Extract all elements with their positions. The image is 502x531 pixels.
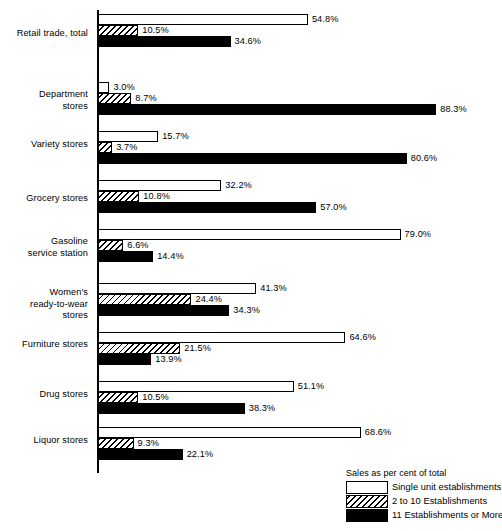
bar-value-label: 41.3% <box>260 283 287 294</box>
bar-value-label: 10.5% <box>142 392 169 403</box>
bar-value-label: 21.5% <box>184 343 211 354</box>
bar-value-label: 22.1% <box>187 449 214 460</box>
category-label: Retail trade, total <box>0 28 88 40</box>
bar-single <box>98 82 109 93</box>
category-label: Gasoline service station <box>0 236 88 259</box>
legend-swatch-mid <box>346 495 388 508</box>
category-label: Variety stores <box>0 139 88 151</box>
bar-value-label: 38.3% <box>249 403 276 414</box>
bar-single <box>98 180 221 191</box>
bar-mid <box>98 25 138 36</box>
bar-large <box>98 403 245 414</box>
bar-value-label: 34.6% <box>235 36 262 47</box>
bar-value-label: 51.1% <box>298 381 325 392</box>
bar-value-label: 9.3% <box>138 438 159 449</box>
bar-single <box>98 229 401 240</box>
bar-single <box>98 381 294 392</box>
bar-value-label: 8.7% <box>135 93 156 104</box>
bar-single <box>98 14 308 25</box>
category-label: Furniture stores <box>0 339 88 351</box>
bar-value-label: 34.3% <box>233 305 260 316</box>
bar-value-label: 24.4% <box>195 294 222 305</box>
category-label: Drug stores <box>0 389 88 401</box>
bar-mid <box>98 294 191 305</box>
bar-mid <box>98 142 112 153</box>
bar-value-label: 3.7% <box>116 142 137 153</box>
bar-value-label: 13.9% <box>155 354 182 365</box>
bar-value-label: 10.8% <box>143 191 170 202</box>
bar-single <box>98 283 256 294</box>
bar-mid <box>98 343 180 354</box>
bar-value-label: 3.0% <box>113 82 134 93</box>
bar-large <box>98 251 153 262</box>
legend-item[interactable]: Single unit establishments <box>346 480 502 494</box>
chart-legend: Sales as per cent of total Single unit e… <box>346 468 502 522</box>
legend-title: Sales as per cent of total <box>346 468 502 478</box>
bar-mid <box>98 191 139 202</box>
legend-item[interactable]: 11 Establishments or More <box>346 508 502 522</box>
category-label: Grocery stores <box>0 193 88 205</box>
bar-value-label: 57.0% <box>320 202 347 213</box>
bar-value-label: 88.3% <box>440 104 467 115</box>
bar-large <box>98 104 436 115</box>
bar-mid <box>98 240 123 251</box>
bar-chart: Retail trade, total54.8%10.5%34.6%Depart… <box>0 0 502 531</box>
bar-value-label: 80.6% <box>411 153 438 164</box>
bar-mid <box>98 93 131 104</box>
bar-mid <box>98 438 134 449</box>
bar-single <box>98 131 158 142</box>
bar-value-label: 79.0% <box>405 229 432 240</box>
bar-large <box>98 36 231 47</box>
bar-value-label: 64.6% <box>349 332 376 343</box>
legend-swatch-single <box>346 481 388 494</box>
legend-item[interactable]: 2 to 10 Establishments <box>346 494 502 508</box>
bar-single <box>98 332 345 343</box>
bar-value-label: 68.6% <box>365 427 392 438</box>
legend-label: 2 to 10 Establishments <box>392 496 487 506</box>
bar-large <box>98 202 316 213</box>
legend-swatch-large <box>346 509 388 522</box>
bar-large <box>98 354 151 365</box>
bar-large <box>98 305 229 316</box>
category-label: Liquor stores <box>0 435 88 447</box>
bar-value-label: 54.8% <box>312 14 339 25</box>
bar-value-label: 14.4% <box>157 251 184 262</box>
legend-label: 11 Establishments or More <box>392 510 502 520</box>
bar-mid <box>98 392 138 403</box>
bar-large <box>98 449 183 460</box>
legend-entries: Single unit establishments2 to 10 Establ… <box>346 480 502 522</box>
bar-value-label: 32.2% <box>225 180 252 191</box>
bar-value-label: 6.6% <box>127 240 148 251</box>
category-label: Women's ready-to-wear stores <box>0 287 88 322</box>
bar-large <box>98 153 407 164</box>
legend-label: Single unit establishments <box>392 482 501 492</box>
bar-single <box>98 427 361 438</box>
bar-value-label: 10.5% <box>142 25 169 36</box>
category-label: Department stores <box>0 89 88 112</box>
bar-value-label: 15.7% <box>162 131 189 142</box>
